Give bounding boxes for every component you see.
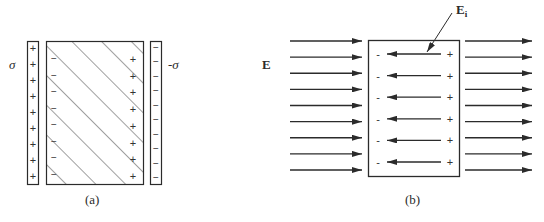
minus-charge: − [153, 42, 159, 53]
panel-b: E -+-+-+-+-+-+ Ei (b) [262, 2, 532, 207]
plus-charge: + [447, 70, 453, 82]
minus-charge: − [153, 114, 159, 125]
external-field-label: E [262, 57, 271, 72]
minus-charge: − [153, 172, 159, 183]
plus-charge: + [30, 90, 36, 102]
minus-charge: − [153, 158, 159, 169]
minus-charge: − [51, 136, 57, 147]
plus-charge: + [30, 122, 36, 134]
minus-charge: − [153, 71, 159, 82]
minus-charge: − [51, 169, 57, 180]
plus-charge: + [130, 170, 136, 182]
left-plate-charges: +++++++++ [30, 42, 36, 182]
plus-charge: + [30, 106, 36, 118]
plus-charge: + [447, 134, 453, 146]
plus-charge: + [30, 154, 36, 166]
panel-a: +++++++++ −−−−−−−− ++++++++ −−−−−−−−−− σ… [9, 42, 179, 208]
plus-charge: + [30, 74, 36, 86]
plus-charge: + [130, 153, 136, 165]
internal-field-label: Ei [456, 2, 468, 19]
caption-a: (a) [85, 192, 99, 207]
minus-charge: − [51, 70, 57, 81]
plus-charge: + [130, 70, 136, 82]
internal-field-arrows: -+-+-+-+-+-+ [376, 48, 453, 168]
minus-charge: − [51, 152, 57, 163]
minus-charge: - [376, 48, 380, 60]
minus-charge: − [153, 129, 159, 140]
minus-charge: − [51, 103, 57, 114]
plus-charge: + [130, 120, 136, 132]
plus-charge: + [130, 86, 136, 98]
minus-charge: - [376, 91, 380, 103]
plus-charge: + [130, 103, 136, 115]
plus-charge: + [30, 58, 36, 70]
minus-charge: − [153, 100, 159, 111]
plus-charge: + [447, 91, 453, 103]
internal-field-pointer [427, 13, 452, 52]
minus-charge: − [51, 53, 57, 64]
minus-charge: - [376, 156, 380, 168]
plus-charge: + [447, 156, 453, 168]
minus-charge: - [376, 134, 380, 146]
minus-charge: − [153, 143, 159, 154]
minus-charge: - [376, 113, 380, 125]
sigma-label: σ [9, 57, 16, 72]
external-field-arrows-right [465, 41, 532, 170]
plus-charge: + [30, 138, 36, 150]
neg-sigma-label: -σ [168, 57, 179, 72]
minus-charge: − [51, 119, 57, 130]
plus-charge: + [130, 53, 136, 65]
plus-charge: + [30, 42, 36, 54]
minus-charge: − [153, 85, 159, 96]
plus-charge: + [447, 113, 453, 125]
plus-charge: + [447, 48, 453, 60]
minus-charge: − [51, 86, 57, 97]
plus-charge: + [130, 137, 136, 149]
plus-charge: + [30, 170, 36, 182]
minus-charge: - [376, 70, 380, 82]
figure-canvas: +++++++++ −−−−−−−− ++++++++ −−−−−−−−−− σ… [0, 0, 544, 222]
external-field-arrows-left [290, 41, 362, 170]
caption-b: (b) [405, 192, 420, 207]
minus-charge: − [153, 56, 159, 67]
